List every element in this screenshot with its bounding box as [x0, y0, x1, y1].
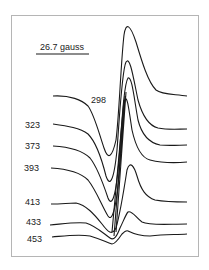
- label-298: 298: [91, 95, 106, 105]
- label-453: 453: [27, 234, 42, 244]
- scale-bar-label: 26.7 gauss: [40, 42, 85, 52]
- label-393: 393: [24, 163, 39, 173]
- label-433: 433: [26, 217, 41, 227]
- label-373: 373: [25, 141, 40, 151]
- epr-spectra-plot: 26.7 gauss 298 323 373 393 413 433 453: [0, 0, 209, 270]
- label-413: 413: [25, 197, 40, 207]
- label-323: 323: [25, 120, 40, 130]
- spectrum-453: [52, 231, 187, 244]
